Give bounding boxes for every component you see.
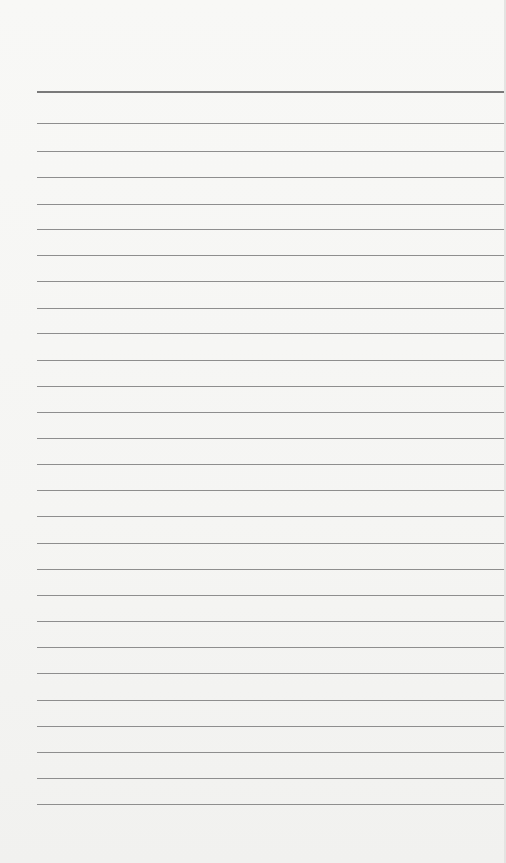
ruled-line: [37, 673, 506, 674]
ruled-line: [37, 700, 506, 701]
ruled-line: [37, 778, 506, 779]
ruled-line: [37, 621, 506, 622]
ruled-line: [37, 229, 506, 230]
ruled-line: [37, 490, 506, 491]
ruled-line: [37, 308, 506, 309]
ruled-line: [37, 281, 506, 282]
ruled-line: [37, 151, 506, 152]
ruled-line: [37, 360, 506, 361]
ruled-line: [37, 123, 506, 124]
ruled-line: [37, 412, 506, 413]
ruled-line: [37, 516, 506, 517]
ruled-line: [37, 595, 506, 596]
ruled-line: [37, 464, 506, 465]
ruled-line: [37, 569, 506, 570]
ruled-line: [37, 726, 506, 727]
ruled-line: [37, 91, 506, 93]
ruled-line: [37, 177, 506, 178]
ruled-line: [37, 438, 506, 439]
ruled-line: [37, 543, 506, 544]
ruled-line: [37, 804, 506, 805]
ruled-line: [37, 255, 506, 256]
ruled-line: [37, 204, 506, 205]
ruled-line: [37, 647, 506, 648]
ruled-line: [37, 752, 506, 753]
ruled-line: [37, 386, 506, 387]
ruled-line: [37, 333, 506, 334]
lined-paper: [0, 0, 506, 863]
